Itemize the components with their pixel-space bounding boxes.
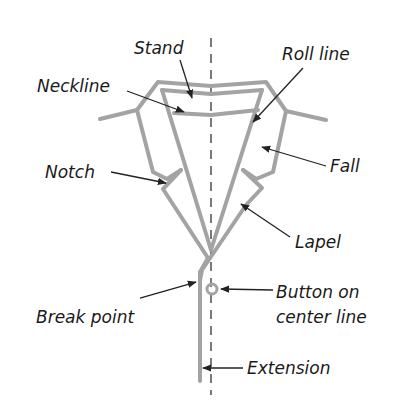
label-neckline: Neckline [37, 76, 110, 96]
label-roll-line: Roll line [282, 44, 350, 64]
arrow-fall [262, 147, 326, 166]
garment-outline [100, 82, 326, 381]
arrow-button [221, 289, 273, 290]
label-fall: Fall [330, 156, 360, 176]
collar-diagram: Stand Roll line Neckline Notch Fall Lape… [0, 0, 409, 407]
front-extension [200, 258, 208, 381]
label-notch: Notch [45, 162, 95, 182]
label-extension: Extension [247, 358, 330, 378]
right-shoulder [286, 111, 326, 120]
left-shoulder [100, 110, 137, 119]
label-button-line2: center line [276, 307, 367, 327]
button [207, 284, 217, 294]
label-stand: Stand [134, 38, 184, 58]
left-collar-fall [137, 110, 181, 179]
arrow-break-point [140, 282, 196, 298]
arrow-lapel [241, 204, 290, 237]
label-button-line1: Button on [276, 282, 360, 302]
label-lapel: Lapel [295, 232, 341, 252]
neckline [174, 110, 258, 115]
label-break-point: Break point [36, 307, 135, 327]
right-collar-fall [243, 111, 286, 179]
stand-top [162, 90, 262, 94]
